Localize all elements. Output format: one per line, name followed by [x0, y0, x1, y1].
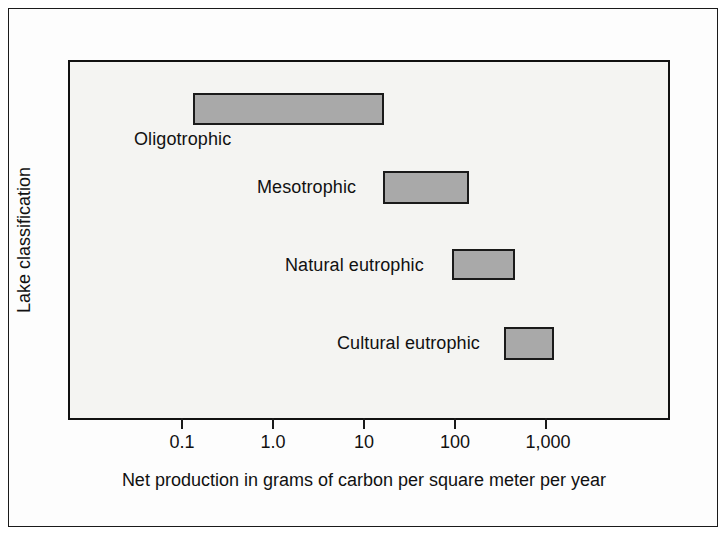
bar-mesotrophic: [383, 171, 469, 204]
x-tick-3: [454, 418, 456, 429]
bar-label-mesotrophic: Mesotrophic: [257, 177, 356, 198]
x-axis-ticks: [68, 418, 670, 430]
x-tick-0: [181, 418, 183, 429]
bar-label-cultural-eutrophic: Cultural eutrophic: [337, 333, 480, 354]
bar-oligotrophic: [193, 93, 384, 125]
x-tick-label-0: 0.1: [169, 432, 194, 453]
bar-natural-eutrophic: [452, 249, 515, 280]
x-tick-2: [363, 418, 365, 429]
x-axis-title: Net production in grams of carbon per sq…: [0, 470, 728, 491]
x-tick-label-3: 100: [440, 432, 470, 453]
x-tick-1: [272, 418, 274, 429]
x-tick-label-4: 1,000: [525, 432, 570, 453]
x-tick-label-1: 1.0: [260, 432, 285, 453]
x-tick-4: [545, 418, 547, 429]
y-axis-title: Lake classification: [14, 120, 38, 360]
bar-label-oligotrophic: Oligotrophic: [134, 129, 231, 150]
plot-area: Oligotrophic Mesotrophic Natural eutroph…: [68, 60, 670, 420]
bar-label-natural-eutrophic: Natural eutrophic: [285, 255, 424, 276]
x-tick-label-2: 10: [354, 432, 374, 453]
chart-figure: Oligotrophic Mesotrophic Natural eutroph…: [0, 0, 728, 537]
bar-cultural-eutrophic: [504, 327, 554, 360]
